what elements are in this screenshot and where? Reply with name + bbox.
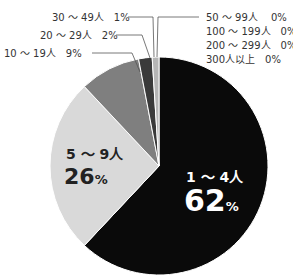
label-20-29: 20 〜 29人 2% xyxy=(40,30,118,41)
label-200-299: 200 〜 299人 0% xyxy=(206,40,293,51)
label-300-plus: 300人以上 0% xyxy=(206,54,281,65)
label-30-49: 30 〜 49人 1% xyxy=(52,12,130,23)
label-5-9-category: 5 〜 9人 xyxy=(66,146,124,162)
pie-chart: 10 〜 19人 9% 20 〜 29人 2% 30 〜 49人 1% 50 〜… xyxy=(0,0,293,277)
label-50-99: 50 〜 99人 0% xyxy=(206,12,287,23)
label-100-199: 100 〜 199人 0% xyxy=(206,26,293,37)
label-10-19: 10 〜 19人 9% xyxy=(4,48,82,59)
